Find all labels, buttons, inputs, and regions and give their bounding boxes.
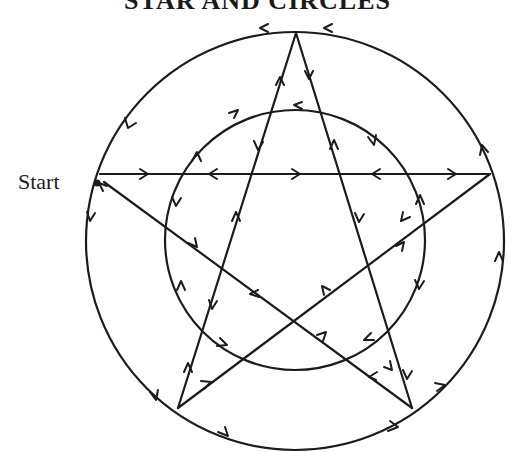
arrow-icon — [229, 110, 238, 118]
arrow-icon — [435, 383, 445, 391]
arrow-icon — [324, 24, 332, 32]
pentagram — [100, 33, 490, 408]
star-edge-bottom-right-to-left — [104, 182, 412, 408]
arrow-icon — [172, 197, 181, 206]
arrow-icon — [384, 361, 392, 370]
star-edge-bottom-left-to-top — [178, 33, 296, 408]
direction-arrows — [87, 24, 503, 436]
arrow-icon — [294, 102, 302, 109]
arrow-icon — [260, 24, 268, 32]
arrow-icon — [369, 372, 377, 380]
star-edge-right-to-bottom-left — [178, 174, 490, 408]
arrow-icon — [125, 118, 136, 128]
arrow-icon — [495, 252, 503, 261]
arrow-icon — [254, 141, 263, 150]
arrow-icon — [355, 213, 364, 222]
arrow-icon — [330, 140, 338, 149]
arrow-icon — [403, 370, 412, 379]
arrow-icon — [364, 333, 374, 340]
inner-circle — [165, 110, 425, 370]
arrow-icon — [401, 212, 410, 221]
arrow-icon — [87, 212, 95, 221]
star-circles-diagram — [0, 0, 515, 452]
star-edge-top-to-bottom-right — [296, 33, 412, 408]
arrow-icon — [177, 281, 185, 290]
arrow-icon — [218, 427, 228, 436]
